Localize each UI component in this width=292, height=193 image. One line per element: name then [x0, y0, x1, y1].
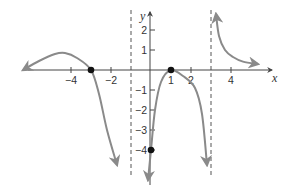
y-tick-label: −4 [135, 144, 147, 156]
right-branch-curve [216, 14, 258, 64]
x-tick-label: 4 [228, 74, 234, 86]
y-tick-label: −3 [135, 124, 147, 136]
middle-branch-curve [148, 70, 207, 180]
x-tick-label: −4 [65, 74, 77, 86]
y-tick-label: −2 [135, 104, 147, 116]
y-tick-label: −1 [135, 84, 147, 96]
y-tick-label: 2 [141, 24, 147, 36]
x-intercept-point [88, 67, 95, 74]
y-intercept-point [148, 147, 155, 154]
y-tick-label: 1 [141, 44, 147, 56]
rational-function-graph: −4−212421−1−2−3−4 x y [0, 0, 292, 193]
y-axis-label: y [139, 9, 146, 23]
x-axis-label: x [271, 71, 278, 85]
x-tick-label: 1 [168, 74, 174, 86]
x-tick-label: −2 [105, 74, 117, 86]
x-intercept-point [168, 67, 175, 74]
